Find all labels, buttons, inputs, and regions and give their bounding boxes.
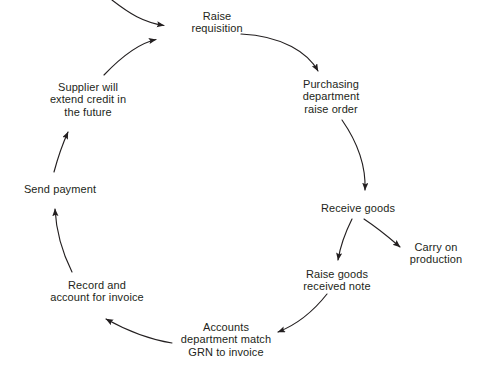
- node-record-and-account-for-invoice: Record and account for invoice: [50, 279, 144, 304]
- node-supplier-will-extend-credit-in-the-future: Supplier will extend credit in the futur…: [50, 81, 126, 118]
- edge-accounts-to-record-invoice: [106, 319, 172, 343]
- cycle-diagram: Raise requisition Purchasing department …: [0, 0, 479, 376]
- node-raise-goods-received-note: Raise goods received note: [303, 268, 370, 293]
- edge-purchasing-to-receive-goods: [342, 120, 365, 190]
- node-receive-goods: Receive goods: [321, 202, 395, 214]
- node-accounts-department-match-grn-to-invoice: Accounts department match GRN to invoice: [181, 321, 271, 358]
- node-raise-requisition: Raise requisition: [191, 10, 242, 35]
- edge-raise-grn-to-accounts: [278, 294, 327, 332]
- edge-send-payment-to-supplier-credit: [54, 132, 68, 172]
- edge-supplier-credit-to-raise-requisition: [104, 40, 156, 76]
- edge-entry-to-raise-requisition: [112, 0, 164, 26]
- edge-raise-requisition-to-purchasing: [241, 34, 318, 71]
- edge-receive-goods-to-carry-on-production: [364, 219, 400, 247]
- node-send-payment: Send payment: [24, 183, 96, 195]
- node-purchasing-department-raise-order: Purchasing department raise order: [303, 78, 360, 115]
- edge-receive-goods-to-raise-grn: [338, 219, 352, 260]
- node-carry-on-production: Carry on production: [410, 241, 462, 266]
- edge-record-invoice-to-send-payment: [55, 209, 72, 272]
